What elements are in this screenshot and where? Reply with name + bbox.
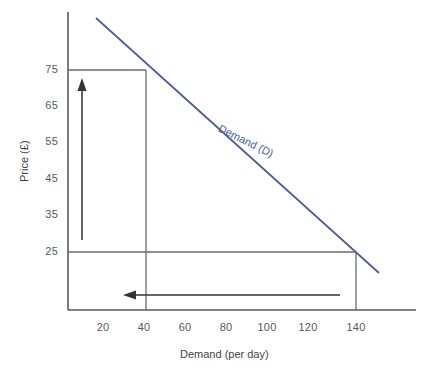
demand-curve-chart: 75 65 55 45 35 25 20 40 60 80 100 120 14… xyxy=(0,0,428,369)
x-tick-label-20: 20 xyxy=(86,321,120,333)
y-tick-label-55: 55 xyxy=(32,135,58,147)
x-tick-label-100: 100 xyxy=(250,321,284,333)
y-tick-label-65: 65 xyxy=(32,99,58,111)
x-axis-title: Demand (per day) xyxy=(180,348,269,360)
price-arrow-head xyxy=(78,78,87,91)
x-tick-label-40: 40 xyxy=(127,321,161,333)
x-tick-label-120: 120 xyxy=(291,321,325,333)
y-tick-label-75: 75 xyxy=(32,63,58,75)
y-tick-label-25: 25 xyxy=(32,245,58,257)
y-tick-label-35: 35 xyxy=(32,208,58,220)
x-tick-label-80: 80 xyxy=(209,321,243,333)
y-axis-title: Price (£) xyxy=(18,140,30,182)
x-tick-label-140: 140 xyxy=(339,321,373,333)
x-tick-label-60: 60 xyxy=(168,321,202,333)
demand-line xyxy=(96,18,379,273)
chart-canvas xyxy=(0,0,428,369)
quantity-arrow-head xyxy=(123,291,136,300)
y-tick-label-45: 45 xyxy=(32,172,58,184)
